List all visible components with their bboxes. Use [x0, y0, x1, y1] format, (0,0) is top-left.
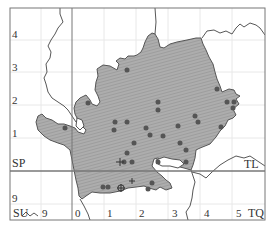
x-label-3: 3 [172, 208, 178, 219]
distribution-map [0, 0, 271, 229]
grid-square-tl: TL [244, 158, 259, 170]
y-label-3: 3 [12, 62, 18, 73]
x-label-9: 9 [42, 208, 48, 219]
x-label-4: 4 [204, 208, 210, 219]
x-label-1: 1 [107, 208, 113, 219]
grid-square-sp: SP [12, 157, 25, 169]
x-label-2: 2 [139, 208, 145, 219]
y-label-1: 1 [12, 128, 18, 139]
grid-square-tq: TQ [248, 207, 264, 219]
y-label-4: 4 [12, 29, 18, 40]
y-label-9: 9 [12, 193, 18, 204]
x-label-0: 0 [75, 208, 81, 219]
y-label-2: 2 [12, 95, 18, 106]
x-label-5: 5 [236, 208, 242, 219]
grid-square-su: SU [13, 207, 28, 219]
